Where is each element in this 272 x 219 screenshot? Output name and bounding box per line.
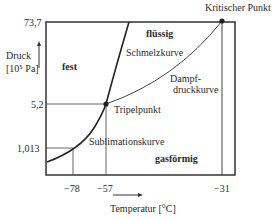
vapor-curve-label-1: Dampf- xyxy=(170,73,201,84)
plot-frame xyxy=(46,22,235,175)
y-tick-73-7: 73,7 xyxy=(24,17,42,28)
sublimation-curve-label: Sublimationskurve xyxy=(89,136,165,147)
sublimation-curve xyxy=(47,104,106,162)
critical-point-marker xyxy=(219,18,224,23)
region-solid-label: fest xyxy=(62,61,77,72)
x-tick-minus-57: −57 xyxy=(97,183,113,194)
triple-point-marker xyxy=(103,101,108,106)
melting-curve xyxy=(106,22,129,104)
y-tick-1-013: 1,013 xyxy=(17,143,40,154)
y-tick-5-2: 5,2 xyxy=(31,99,44,110)
region-gas-label: gasförmig xyxy=(155,153,198,164)
y-axis-unit: [10⁵ Pa] xyxy=(6,63,39,74)
x-tick-minus-31: −31 xyxy=(214,183,230,194)
y-axis-label: Druck xyxy=(6,50,31,61)
x-tick-minus-78: −78 xyxy=(64,183,80,194)
x-axis-label: Temperatur [°C] xyxy=(110,203,176,214)
melting-curve-label: Schmelzkurve xyxy=(126,47,183,58)
vapor-curve-label-2: druckkurve xyxy=(173,84,219,95)
critical-point-label: Kritischer Punkt xyxy=(205,2,271,13)
triple-point-label: Tripelpunkt xyxy=(114,104,161,115)
region-liquid-label: flüssig xyxy=(146,28,173,39)
